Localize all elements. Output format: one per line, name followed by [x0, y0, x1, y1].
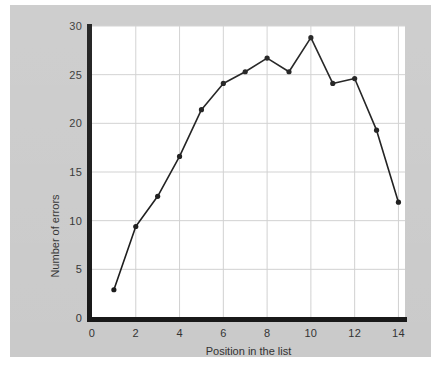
y-axis-title-wrapper: Number of errors [0, 110, 115, 130]
plot-area [92, 26, 405, 318]
figure-root: 051015202530 02468101214 Position in the… [0, 0, 441, 366]
data-series-line [92, 26, 405, 318]
x-tick-label: 14 [392, 327, 405, 339]
x-tick-label: 6 [220, 327, 226, 339]
y-tick-label: 0 [50, 312, 82, 324]
x-tick-label: 4 [176, 327, 182, 339]
y-axis-title: Number of errors [49, 176, 61, 296]
x-tick-label: 12 [348, 327, 361, 339]
figure-card: 051015202530 02468101214 Position in the… [10, 5, 431, 357]
x-tick-label: 8 [264, 327, 270, 339]
x-tick-label: 10 [305, 327, 318, 339]
x-axis-spine [87, 317, 407, 322]
y-tick-label: 30 [50, 20, 82, 32]
x-tick-label: 2 [133, 327, 139, 339]
y-axis-spine [87, 24, 92, 322]
x-axis-title: Position in the list [92, 345, 405, 357]
x-tick-label: 0 [89, 327, 95, 339]
y-tick-label: 25 [50, 69, 82, 81]
